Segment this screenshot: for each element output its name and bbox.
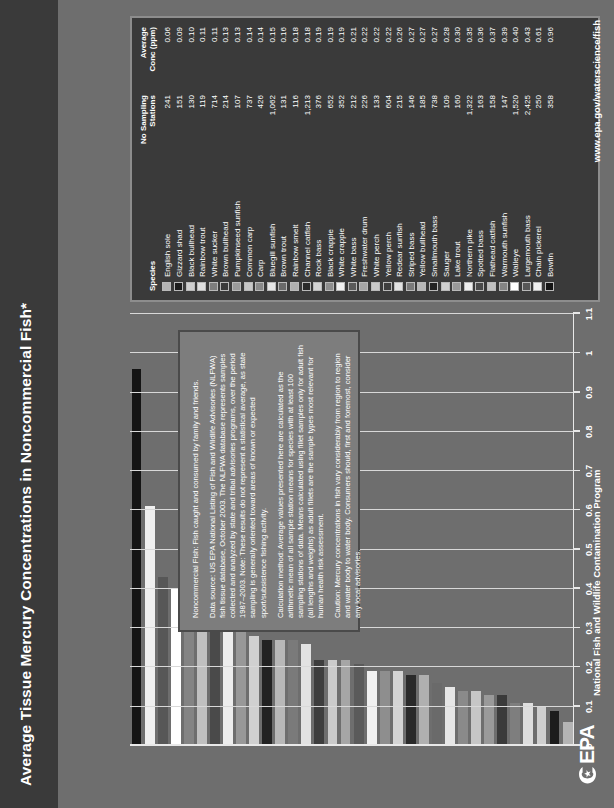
- cell-species: Rainbow trout: [197, 154, 209, 291]
- cell-stations: 376: [313, 85, 325, 154]
- cell-stations: 250: [533, 85, 545, 154]
- cell-stations: 131: [278, 85, 290, 154]
- cell-stations: 130: [186, 85, 198, 154]
- cell-stations: 107: [232, 85, 244, 154]
- cell-stations: 109: [441, 85, 453, 154]
- cell-concentration: 0.18: [302, 27, 314, 85]
- bar: [550, 711, 560, 746]
- bar: [236, 628, 246, 746]
- conc-header-line1: Average: [139, 27, 148, 58]
- notes-box: Noncommercial Fish: Fish caught and cons…: [178, 330, 360, 632]
- cell-species: Yellow perch: [383, 154, 395, 291]
- cell-concentration: 0.11: [197, 27, 209, 85]
- legend-swatch-icon: [429, 282, 438, 291]
- legend-swatch-icon: [244, 282, 253, 291]
- table-row: Black bullhead1300.10: [186, 27, 198, 291]
- cell-species: Walleye: [510, 154, 522, 291]
- table-row: Gizzard shad1510.09: [174, 27, 186, 291]
- x-axis-line: [573, 314, 575, 746]
- legend-swatch-icon: [406, 282, 415, 291]
- cell-stations: 241: [162, 85, 174, 154]
- cell-concentration: 0.14: [244, 27, 256, 85]
- x-axis-tick: [573, 666, 580, 668]
- bar-row: [130, 314, 143, 746]
- cell-concentration: 0.22: [359, 27, 371, 85]
- epa-wordmark: EPA: [575, 725, 599, 764]
- legend-swatch-icon: [475, 282, 484, 291]
- legend-swatch-icon: [464, 282, 473, 291]
- cell-concentration: 0.18: [290, 27, 302, 85]
- table-row: Striped bass1460.27: [406, 27, 418, 291]
- cell-species: Sauger: [441, 154, 453, 291]
- cell-species: Black bullhead: [186, 154, 198, 291]
- table-header: Species No Sampling Stations Average Con…: [139, 27, 162, 291]
- legend-swatch-icon: [487, 282, 496, 291]
- cell-species: Brown trout: [278, 154, 290, 291]
- legend-swatch-icon: [394, 282, 403, 291]
- cell-concentration: 0.19: [325, 27, 337, 85]
- cell-species: White bass: [348, 154, 360, 291]
- bar-row: [522, 314, 535, 746]
- cell-concentration: 0.43: [522, 27, 534, 85]
- legend-swatch-icon: [522, 282, 531, 291]
- x-axis-tick: [573, 587, 580, 589]
- cell-stations: 426: [255, 85, 267, 154]
- table-row: White bass2120.21: [348, 27, 360, 291]
- column-header-concentration: Average Conc (ppm): [139, 27, 162, 85]
- bar: [537, 707, 547, 746]
- x-axis-tick: [573, 705, 580, 707]
- bar-row: [378, 314, 391, 746]
- legend-swatch-icon: [545, 282, 554, 291]
- cell-species: Chain pickerel: [533, 154, 545, 291]
- bar: [249, 636, 259, 746]
- table-row: Smallmouth bass7380.27: [429, 27, 441, 291]
- legend-swatch-icon: [313, 282, 322, 291]
- table-row: Bluegill sunfish1,0620.15: [267, 27, 279, 291]
- bar-row: [535, 314, 548, 746]
- cell-species: White crappie: [336, 154, 348, 291]
- cell-concentration: 0.39: [499, 27, 511, 85]
- table-row: Redear sunfish2150.26: [394, 27, 406, 291]
- table-row: White sucker7140.11: [209, 27, 221, 291]
- bar: [367, 671, 377, 746]
- cell-species: Northern pike: [464, 154, 476, 291]
- note-paragraph-2: Calculation method: Average values prese…: [276, 344, 326, 618]
- table-row: Brown trout1310.16: [278, 27, 290, 291]
- cell-stations: 133: [371, 85, 383, 154]
- cell-concentration: 0.19: [336, 27, 348, 85]
- bar-row: [483, 314, 496, 746]
- legend-swatch-icon: [290, 282, 299, 291]
- cell-concentration: 0.11: [209, 27, 221, 85]
- cell-stations: 116: [290, 85, 302, 154]
- cell-stations: 158: [487, 85, 499, 154]
- cell-concentration: 0.27: [417, 27, 429, 85]
- legend-swatch-icon: [510, 282, 519, 291]
- epa-url: www.epa.gov/waterscience/fish: [591, 20, 602, 162]
- cell-stations: 652: [325, 85, 337, 154]
- bar-row: [548, 314, 561, 746]
- cell-species: Lake trout: [452, 154, 464, 291]
- legend-swatch-icon: [278, 282, 287, 291]
- cell-species: Rainbow smelt: [290, 154, 302, 291]
- cell-species: Flathead catfish: [487, 154, 499, 291]
- bar-row: [391, 314, 404, 746]
- table-row: Sauger1090.28: [441, 27, 453, 291]
- table-row: White crappie3520.19: [336, 27, 348, 291]
- bar: [458, 691, 468, 746]
- cell-concentration: 0.35: [464, 27, 476, 85]
- program-name: National Fish and Wildlife Contamination…: [591, 470, 602, 696]
- bar-row: [404, 314, 417, 746]
- cell-stations: 215: [394, 85, 406, 154]
- table-row: Common carp7370.14: [244, 27, 256, 291]
- bar: [328, 660, 338, 746]
- table-header-row: Species No Sampling Stations Average Con…: [139, 27, 162, 291]
- cell-concentration: 0.40: [510, 27, 522, 85]
- bar: [158, 577, 168, 746]
- gridline: [130, 706, 574, 707]
- legend-swatch-icon: [325, 282, 334, 291]
- table-row: White perch1330.22: [371, 27, 383, 291]
- conc-header-line2: Conc (ppm): [148, 27, 157, 71]
- bar-row: [496, 314, 509, 746]
- bar: [341, 660, 351, 746]
- cell-stations: 737: [244, 85, 256, 154]
